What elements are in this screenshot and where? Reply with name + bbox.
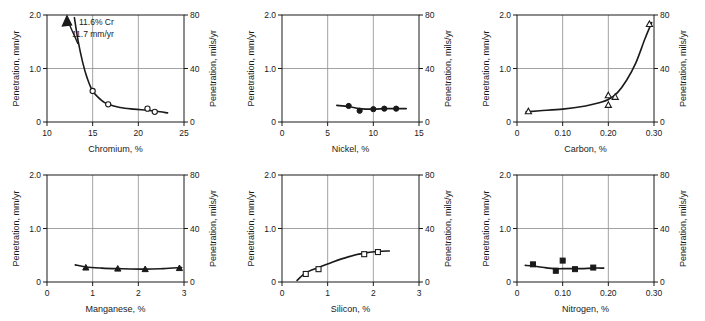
callout-annotation: 11.6% Cr11.7 mm/yr bbox=[63, 16, 115, 44]
svg-text:2.0: 2.0 bbox=[29, 10, 41, 20]
svg-text:1: 1 bbox=[325, 288, 330, 298]
trend-curve bbox=[526, 22, 652, 111]
data-point bbox=[145, 106, 150, 111]
data-point bbox=[106, 102, 111, 107]
y-axis-left: 01.02.0 bbox=[499, 170, 517, 287]
y-axis-left: 01.02.0 bbox=[29, 170, 47, 287]
svg-text:0.10: 0.10 bbox=[554, 128, 571, 138]
svg-text:0.20: 0.20 bbox=[600, 288, 617, 298]
data-markers bbox=[90, 88, 157, 114]
y-axis-right: 04080 bbox=[419, 10, 435, 127]
svg-text:0: 0 bbox=[190, 117, 195, 127]
svg-text:40: 40 bbox=[425, 64, 435, 74]
y-axis-title-right: Penetration, mils/yr bbox=[443, 30, 453, 107]
svg-text:0: 0 bbox=[36, 117, 41, 127]
svg-text:2.0: 2.0 bbox=[499, 10, 511, 20]
trend-curve bbox=[75, 265, 181, 269]
x-axis: 0123 bbox=[280, 282, 422, 298]
y-axis-title-left: Penetration, mm/yr bbox=[11, 30, 21, 106]
svg-text:10: 10 bbox=[42, 128, 52, 138]
y-axis-title-right: Penetration, mils/yr bbox=[678, 30, 688, 107]
svg-text:1.0: 1.0 bbox=[499, 64, 511, 74]
gridlines bbox=[47, 175, 184, 282]
y-axis-title-left: Penetration, mm/yr bbox=[481, 190, 491, 266]
svg-text:40: 40 bbox=[190, 64, 200, 74]
chart-panel-nickel: 05101501.02.004080Nickel, %Penetration, … bbox=[235, 0, 470, 160]
svg-text:1.0: 1.0 bbox=[264, 224, 276, 234]
trend-curve bbox=[297, 251, 389, 280]
data-point bbox=[382, 106, 387, 111]
svg-text:0: 0 bbox=[36, 277, 41, 287]
svg-text:0: 0 bbox=[271, 277, 276, 287]
svg-text:80: 80 bbox=[190, 10, 200, 20]
y-axis-title-left: Penetration, mm/yr bbox=[246, 30, 256, 106]
svg-text:0.20: 0.20 bbox=[600, 128, 617, 138]
x-axis-title: Carbon, % bbox=[564, 144, 607, 154]
y-axis-title-left: Penetration, mm/yr bbox=[246, 190, 256, 266]
data-markers bbox=[303, 250, 380, 277]
svg-text:80: 80 bbox=[190, 170, 200, 180]
svg-text:2: 2 bbox=[371, 288, 376, 298]
y-axis-left: 01.02.0 bbox=[264, 10, 282, 127]
svg-text:0: 0 bbox=[425, 117, 430, 127]
svg-text:5: 5 bbox=[325, 128, 330, 138]
svg-text:80: 80 bbox=[660, 10, 670, 20]
svg-text:3: 3 bbox=[182, 288, 187, 298]
y-axis-right: 04080 bbox=[184, 10, 200, 127]
x-axis: 0123 bbox=[45, 282, 187, 298]
y-axis-right: 04080 bbox=[184, 170, 200, 287]
svg-text:3: 3 bbox=[417, 288, 422, 298]
data-point bbox=[316, 267, 321, 272]
svg-text:0: 0 bbox=[280, 288, 285, 298]
svg-text:0: 0 bbox=[280, 128, 285, 138]
y-axis-right: 04080 bbox=[419, 170, 435, 287]
x-axis: 051015 bbox=[280, 122, 424, 138]
x-axis-title: Nickel, % bbox=[332, 144, 370, 154]
svg-text:2: 2 bbox=[136, 288, 141, 298]
data-point bbox=[525, 108, 531, 114]
data-point bbox=[553, 268, 558, 273]
svg-text:10: 10 bbox=[369, 128, 379, 138]
svg-text:0: 0 bbox=[271, 117, 276, 127]
chart-panel-carbon: 00.100.200.3001.02.004080Carbon, %Penetr… bbox=[470, 0, 705, 160]
y-axis-right: 04080 bbox=[654, 10, 670, 127]
y-axis-title-right: Penetration, mils/yr bbox=[678, 190, 688, 267]
data-point bbox=[346, 103, 351, 108]
y-axis-title-right: Penetration, mils/yr bbox=[208, 190, 218, 267]
y-axis-left: 01.02.0 bbox=[264, 170, 282, 287]
svg-text:0: 0 bbox=[506, 277, 511, 287]
svg-text:80: 80 bbox=[660, 170, 670, 180]
svg-text:0: 0 bbox=[425, 277, 430, 287]
chart-panel-manganese: 012301.02.004080Manganese, %Penetration,… bbox=[0, 160, 235, 320]
gridlines bbox=[282, 175, 419, 282]
svg-text:0: 0 bbox=[506, 117, 511, 127]
svg-text:0.30: 0.30 bbox=[646, 288, 663, 298]
callout-line-1: 11.6% Cr bbox=[79, 17, 114, 27]
svg-text:40: 40 bbox=[660, 64, 670, 74]
x-axis: 10152025 bbox=[42, 122, 189, 138]
svg-text:80: 80 bbox=[425, 10, 435, 20]
data-point bbox=[394, 106, 399, 111]
callout-line-2: 11.7 mm/yr bbox=[72, 29, 114, 39]
data-point bbox=[573, 267, 578, 272]
y-axis-left: 01.02.0 bbox=[499, 10, 517, 127]
data-point bbox=[152, 109, 157, 114]
svg-text:20: 20 bbox=[134, 128, 144, 138]
x-axis-title: Nitrogen, % bbox=[562, 304, 609, 314]
x-axis-title: Manganese, % bbox=[85, 304, 145, 314]
data-point bbox=[362, 252, 367, 257]
svg-text:40: 40 bbox=[660, 224, 670, 234]
figure-panel-grid: 1015202501.02.004080Chromium, %Penetrati… bbox=[0, 0, 705, 321]
svg-text:15: 15 bbox=[414, 128, 424, 138]
data-point bbox=[612, 94, 618, 100]
data-point bbox=[90, 88, 95, 93]
data-point bbox=[530, 262, 535, 267]
svg-text:25: 25 bbox=[179, 128, 189, 138]
data-point bbox=[605, 92, 611, 98]
arrow-head-icon bbox=[63, 16, 72, 26]
data-point bbox=[375, 250, 380, 255]
svg-text:0.30: 0.30 bbox=[646, 128, 663, 138]
svg-text:0: 0 bbox=[45, 288, 50, 298]
svg-text:0: 0 bbox=[515, 128, 520, 138]
data-point bbox=[591, 265, 596, 270]
